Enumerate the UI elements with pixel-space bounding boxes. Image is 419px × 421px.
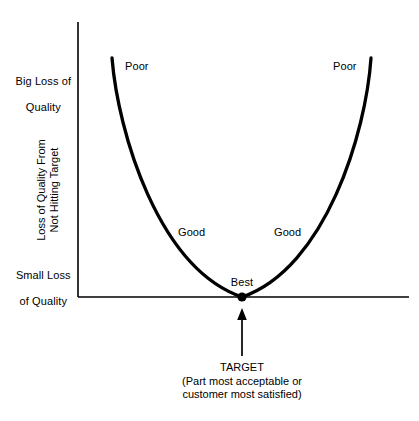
y-axis-title-line2: Not Hitting Target [48,125,61,255]
target-caption: TARGET (Part most acceptable or customer… [127,361,357,402]
y-axis-top-label-line1: Big Loss of [16,75,72,87]
taguchi-loss-function-figure: Big Loss of Quality Small Loss of Qualit… [0,0,419,421]
y-axis-top-label: Big Loss of Quality [0,62,74,127]
target-caption-title: TARGET [127,361,357,375]
region-label-good-left: Good [178,226,205,239]
target-caption-line2: customer most satisfied) [127,388,357,402]
y-axis-title-line1: Loss of Quality From [35,125,48,255]
region-label-poor-right: Poor [333,60,357,73]
target-caption-line1: (Part most acceptable or [127,375,357,389]
y-axis-bottom-label-line1: Small Loss [16,269,71,281]
target-arrow-head [237,308,247,320]
region-label-poor-left: Poor [125,60,149,73]
y-axis-title: Loss of Quality From Not Hitting Target [35,125,61,255]
y-axis-bottom-label-line2: of Quality [20,295,67,307]
region-label-good-right: Good [274,226,301,239]
y-axis-bottom-label: Small Loss of Quality [0,256,74,321]
region-label-best: Best [214,276,270,289]
best-point-marker [237,292,246,301]
loss-function-curve [112,58,371,297]
y-axis-top-label-line2: Quality [26,101,61,113]
